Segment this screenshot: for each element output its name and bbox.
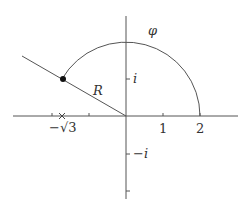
contour-diagram: φ R i −i 1 2 −√3 [0,0,246,212]
diagram-svg [0,0,246,212]
label-minus-i: −i [133,147,148,160]
ray-R [22,56,126,116]
label-minus-sqrt3: −√3 [49,121,76,134]
label-one: 1 [159,122,167,135]
label-i: i [133,72,137,85]
endpoint-dot-icon [60,76,66,82]
arc-phi [62,42,200,116]
imaginary-axis-ticks [126,79,130,191]
label-phi: φ [148,24,157,37]
label-two: 2 [196,122,204,135]
label-R: R [93,84,103,97]
